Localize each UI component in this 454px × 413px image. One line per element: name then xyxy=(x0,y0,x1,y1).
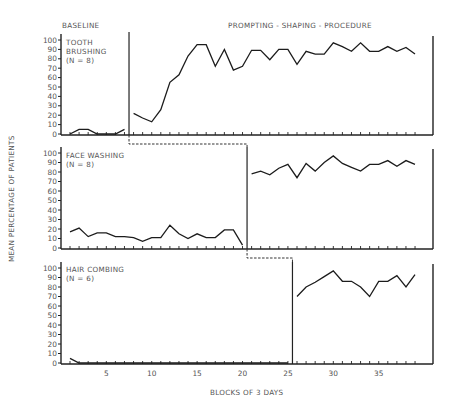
treatment-series-line xyxy=(252,156,415,178)
y-tick-label: 90 xyxy=(48,158,58,167)
y-axis-title: MEAN PERCENTAGE OF PATIENTS xyxy=(7,135,16,262)
y-tick-label: 100 xyxy=(43,36,57,45)
treatment-phase-label: PROMPTING - SHAPING - PROCEDURE xyxy=(228,21,372,30)
panel-3: 0102030405060708090100 xyxy=(43,262,433,368)
y-tick-label: 100 xyxy=(43,149,57,158)
y-tick-label: 20 xyxy=(48,225,58,234)
y-tick-label: 0 xyxy=(52,359,57,368)
y-tick-label: 10 xyxy=(48,349,58,358)
panel2-title: FACE WASHING xyxy=(66,151,124,160)
baseline-series-line xyxy=(70,129,125,134)
x-tick-label: 10 xyxy=(147,369,157,378)
y-tick-label: 50 xyxy=(48,311,58,320)
x-tick-label: 30 xyxy=(329,369,339,378)
panel1-title-line2: BRUSHING xyxy=(66,47,107,56)
y-tick-label: 60 xyxy=(48,302,58,311)
y-tick-label: 70 xyxy=(48,64,58,73)
phase-step-connector xyxy=(247,249,292,262)
y-tick-label: 70 xyxy=(48,292,58,301)
y-tick-label: 100 xyxy=(43,264,57,273)
x-tick-label: 5 xyxy=(104,369,109,378)
y-tick-label: 40 xyxy=(48,92,58,101)
phase-step-connector xyxy=(129,135,247,147)
y-tick-label: 60 xyxy=(48,187,58,196)
y-tick-label: 30 xyxy=(48,330,58,339)
panel1-title-line1: TOOTH xyxy=(65,38,93,47)
y-tick-label: 80 xyxy=(48,283,58,292)
y-tick-label: 90 xyxy=(48,273,58,282)
x-tick-label: 35 xyxy=(374,369,384,378)
panel-2: 0102030405060708090100 xyxy=(43,147,433,253)
x-tick-label: 15 xyxy=(192,369,202,378)
y-tick-label: 20 xyxy=(48,340,58,349)
y-tick-label: 30 xyxy=(48,101,58,110)
panel1-n: (N = 8) xyxy=(66,56,94,65)
baseline-series-line xyxy=(70,225,243,245)
y-tick-label: 10 xyxy=(48,234,58,243)
x-tick-label: 20 xyxy=(238,369,248,378)
y-tick-label: 10 xyxy=(48,120,58,129)
y-tick-label: 30 xyxy=(48,215,58,224)
y-tick-label: 0 xyxy=(52,130,57,139)
panel2-n: (N = 8) xyxy=(66,160,94,169)
y-tick-label: 80 xyxy=(48,168,58,177)
x-axis-title: BLOCKS OF 3 DAYS xyxy=(210,388,284,397)
y-tick-label: 20 xyxy=(48,111,58,120)
baseline-phase-label: BASELINE xyxy=(62,21,100,30)
panel3-title: HAIR COMBING xyxy=(66,265,124,274)
y-tick-label: 0 xyxy=(52,244,57,253)
multiple-baseline-chart: BASELINE PROMPTING - SHAPING - PROCEDURE… xyxy=(0,0,454,413)
y-tick-label: 40 xyxy=(48,321,58,330)
x-tick-label: 25 xyxy=(283,369,293,378)
y-tick-label: 50 xyxy=(48,196,58,205)
chart-plot-area: 0102030405060708090100010203040506070809… xyxy=(43,32,433,378)
y-tick-label: 50 xyxy=(48,83,58,92)
y-tick-label: 90 xyxy=(48,45,58,54)
y-tick-label: 40 xyxy=(48,206,58,215)
panel3-n: (N = 6) xyxy=(66,274,94,283)
y-tick-label: 60 xyxy=(48,73,58,82)
y-tick-label: 70 xyxy=(48,177,58,186)
treatment-series-line xyxy=(297,271,415,297)
y-tick-label: 80 xyxy=(48,54,58,63)
treatment-series-line xyxy=(134,43,415,122)
